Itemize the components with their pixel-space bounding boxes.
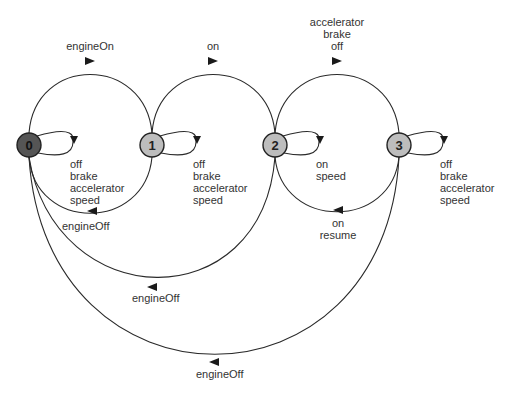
transition-label-0-to-1: engineOn (66, 40, 114, 52)
transitions (29, 57, 448, 366)
transition-label-line: off (440, 158, 453, 170)
self-loop-arrowhead-1-icon (193, 136, 201, 144)
transition-label-3-to-0: engineOff (196, 368, 244, 380)
transition-label-line: speed (316, 170, 346, 182)
self-loop-arrowhead-0-icon (70, 136, 78, 144)
arrowhead-3-to-2-icon (333, 206, 343, 214)
transition-label-line: accelerator (440, 182, 495, 194)
state-0: 0 (17, 133, 41, 157)
transition-label-line: on (332, 217, 344, 229)
transition-label-line: accelerator (193, 182, 248, 194)
state-2: 2 (263, 133, 287, 157)
arrowhead-2-to-0-icon (147, 283, 157, 291)
transition-label-1-to-0: engineOff (62, 220, 110, 232)
transition-label-line: brake (323, 28, 351, 40)
self-loop-label-2: onspeed (316, 158, 346, 182)
transition-label-line: off (331, 40, 344, 52)
self-loop-0 (37, 131, 73, 154)
self-loop-3 (407, 131, 443, 154)
transition-label-line: on (316, 158, 328, 170)
transition-label-line: off (193, 158, 206, 170)
self-loop-1 (160, 131, 196, 154)
transition-label-2-to-3: acceleratorbrakeoff (310, 16, 365, 52)
arrowhead-1-to-0-icon (87, 207, 97, 215)
arrowhead-3-to-0-icon (209, 358, 219, 366)
transition-label-line: engineOff (196, 368, 244, 380)
transition-label-3-to-2: onresume (320, 217, 357, 241)
transition-label-line: accelerator (70, 182, 125, 194)
transition-label-line: accelerator (310, 16, 365, 28)
transition-1-to-2 (152, 75, 275, 134)
transition-label-line: speed (193, 194, 223, 206)
state-3: 3 (387, 133, 411, 157)
transition-label-line: engineOn (66, 40, 114, 52)
transition-3-to-2 (275, 157, 399, 212)
state-1: 1 (140, 133, 164, 157)
state-diagram: 0123 engineOnonacceleratorbrakeoffengine… (0, 0, 509, 394)
transition-label-line: engineOff (62, 220, 110, 232)
self-loop-2 (283, 131, 319, 154)
transition-label-line: brake (440, 170, 468, 182)
transition-label-line: resume (320, 229, 357, 241)
transition-label-line: engineOff (132, 292, 180, 304)
transition-label-2-to-0: engineOff (132, 292, 180, 304)
state-label: 2 (271, 138, 278, 153)
arrowhead-2-to-3-icon (332, 57, 342, 65)
self-loop-label-1: offbrakeacceleratorspeed (193, 158, 248, 206)
transition-label-line: speed (440, 194, 470, 206)
transition-labels: engineOnonacceleratorbrakeoffengineOffon… (62, 16, 495, 380)
arrowhead-0-to-1-icon (85, 57, 95, 65)
transition-label-line: brake (70, 170, 98, 182)
state-label: 1 (148, 138, 155, 153)
transition-label-line: on (207, 40, 219, 52)
self-loop-arrowhead-2-icon (316, 136, 324, 144)
transition-label-line: off (70, 158, 83, 170)
self-loop-label-0: offbrakeacceleratorspeed (70, 158, 125, 206)
arrowhead-1-to-2-icon (208, 57, 218, 65)
self-loop-label-3: offbrakeacceleratorspeed (440, 158, 495, 206)
transition-0-to-1 (29, 75, 152, 134)
state-label: 0 (25, 138, 32, 153)
self-loop-arrowhead-3-icon (440, 136, 448, 144)
state-label: 3 (395, 138, 402, 153)
transition-label-line: brake (193, 170, 221, 182)
transition-label-line: speed (70, 194, 100, 206)
transition-2-to-0 (29, 157, 275, 277)
transition-label-1-to-2: on (207, 40, 219, 52)
transition-2-to-3 (275, 75, 399, 134)
